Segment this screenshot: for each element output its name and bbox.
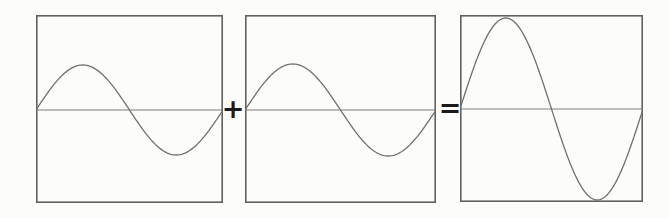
equals-operator: = xyxy=(439,94,462,121)
plus-operator: + xyxy=(222,95,245,122)
panel-wave-sum xyxy=(460,15,643,202)
wave-superposition-figure: + = xyxy=(0,0,669,218)
panel-wave-a xyxy=(36,15,223,203)
panel-wave-b xyxy=(245,15,436,203)
